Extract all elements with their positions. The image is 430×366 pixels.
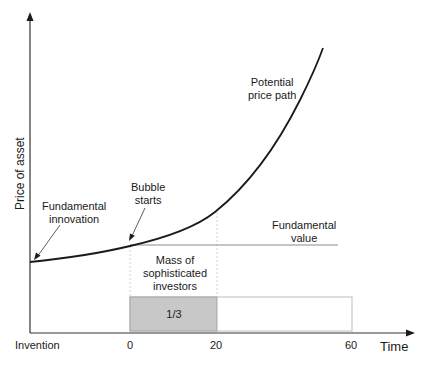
bubble-line2: starts (131, 194, 165, 207)
innovation-arrow (37, 225, 60, 257)
tick-60: 60 (345, 339, 357, 352)
mass-line2: sophisticated (140, 267, 210, 280)
bubble-starts-label: Bubble starts (131, 181, 165, 207)
bubble-line1: Bubble (131, 181, 165, 194)
y-axis-label: Price of asset (13, 137, 27, 210)
fundamental-innovation-label: Fundamental innovation (42, 200, 106, 226)
x-axis-label: Time (380, 339, 408, 354)
y-axis-arrow-icon (27, 12, 34, 21)
x-axis-arrow-icon (406, 330, 415, 337)
mass-line1: Mass of (140, 254, 210, 267)
diagram-canvas (0, 0, 430, 366)
mass-investors-label: Mass of sophisticated investors (140, 254, 210, 293)
fund-innov-line2: innovation (42, 213, 106, 226)
tick-0: 0 (127, 339, 133, 352)
fundamental-value-label: Fundamental value (272, 219, 336, 245)
fund-innov-line1: Fundamental (42, 200, 106, 213)
mass-line3: investors (140, 280, 210, 293)
fund-value-line1: Fundamental (272, 219, 336, 232)
tick-invention: Invention (15, 339, 60, 352)
fraction-label: 1/3 (160, 308, 188, 321)
bubble-arrow (131, 208, 145, 238)
potential-line1: Potential (248, 76, 296, 89)
bubble-arrow-head-icon (129, 234, 135, 242)
tick-20: 20 (210, 339, 222, 352)
potential-price-label: Potential price path (248, 76, 296, 102)
fund-value-line2: value (272, 232, 336, 245)
potential-line2: price path (248, 89, 296, 102)
